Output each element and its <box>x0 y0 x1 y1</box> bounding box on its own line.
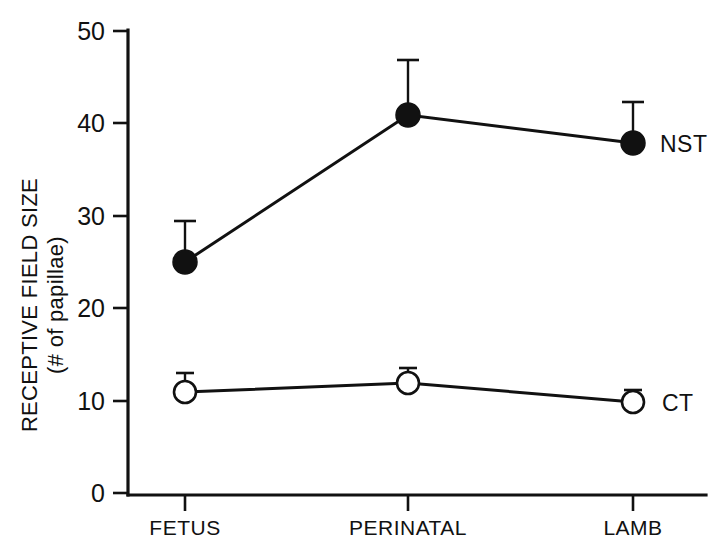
line-chart-canvas: 50 40 30 20 10 0 FETUS PERINATAL LAMB RE… <box>0 0 713 549</box>
series-label-ct: CT <box>662 390 694 416</box>
datapoint-ct-lamb[interactable] <box>622 391 644 413</box>
x-axis-tick-labels: FETUS PERINATAL LAMB <box>149 516 662 539</box>
x-axis-ticks <box>185 495 633 511</box>
y-axis-ticks <box>113 31 128 493</box>
series-nst-line <box>185 115 633 262</box>
y-tick-label-0: 0 <box>91 479 105 507</box>
y-tick-label-20: 20 <box>77 294 105 322</box>
y-tick-label-50: 50 <box>77 17 105 45</box>
series-ct: CT <box>174 368 694 416</box>
y-axis-tick-labels: 50 40 30 20 10 0 <box>77 17 105 507</box>
y-axis-title: RECEPTIVE FIELD SIZE (# of papillae) <box>17 178 68 432</box>
y-tick-label-30: 30 <box>77 202 105 230</box>
datapoint-nst-fetus[interactable] <box>173 250 197 274</box>
x-tick-label-perinatal: PERINATAL <box>349 516 467 539</box>
datapoint-ct-perinatal[interactable] <box>397 372 419 394</box>
datapoint-nst-perinatal[interactable] <box>396 103 420 127</box>
y-axis-title-main: RECEPTIVE FIELD SIZE <box>17 178 42 432</box>
series-label-nst: NST <box>660 131 708 157</box>
y-tick-label-40: 40 <box>77 109 105 137</box>
series-nst: NST <box>173 60 708 274</box>
y-tick-label-10: 10 <box>77 387 105 415</box>
datapoint-nst-lamb[interactable] <box>621 131 645 155</box>
datapoint-ct-fetus[interactable] <box>174 381 196 403</box>
series-nst-errorbars <box>174 60 644 262</box>
x-tick-label-lamb: LAMB <box>603 516 662 539</box>
chart-figure: 50 40 30 20 10 0 FETUS PERINATAL LAMB RE… <box>0 0 713 549</box>
x-tick-label-fetus: FETUS <box>149 516 220 539</box>
y-axis-title-sub: (# of papillae) <box>43 236 68 374</box>
